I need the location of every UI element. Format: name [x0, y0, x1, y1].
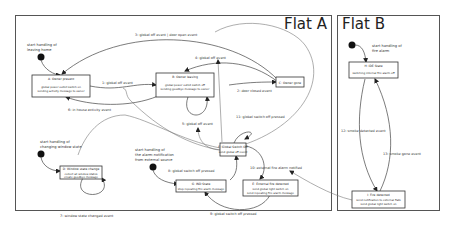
transition-3-label: 3: global off event | door open event	[135, 33, 198, 37]
svg-text:H: IDE State: H: IDE State	[364, 64, 382, 68]
start-node-alarm-notification	[150, 164, 157, 171]
svg-text:send repeating fire alarm mess: send repeating fire alarm message	[247, 191, 294, 195]
state-diagram: Flat A Flat B start handling of leaving …	[0, 0, 454, 233]
svg-text:the alarm-notification: the alarm-notification	[135, 153, 174, 157]
transition-2-label: 2: door closed event	[237, 89, 272, 93]
state-a-owner-present: A: Owner present global power outlet swi…	[32, 75, 90, 97]
transition-2	[229, 82, 276, 85]
start-arrow-d	[41, 157, 60, 171]
svg-text:I: Fire detected: I: Fire detected	[367, 193, 390, 197]
svg-text:switching internal fire alarm: switching internal fire alarm off	[352, 71, 394, 75]
svg-text:B: Owner leaving: B: Owner leaving	[172, 75, 198, 79]
start-note-window-state: start handling of changing window state	[40, 140, 82, 149]
svg-text:from external source: from external source	[135, 158, 173, 162]
svg-text:sending activity message to ow: sending activity message to owner	[37, 89, 85, 93]
transition-11	[234, 132, 251, 143]
transition-5	[187, 97, 208, 115]
transition-8	[230, 156, 237, 180]
svg-text:start handling of: start handling of	[40, 140, 70, 144]
transition-11-label: 11: global switch off pressed	[236, 115, 285, 119]
transition-f-to-e	[246, 146, 264, 179]
transition-1-label: 1: global off event	[102, 81, 134, 85]
flat-a-title: Flat A	[284, 15, 328, 33]
state-b-owner-leaving: B: Owner leaving global power outlet swi…	[156, 73, 214, 97]
state-e-external-fire-detected: E: External fire detected send global li…	[243, 180, 298, 196]
transition-6-label: 6: in house activity event	[68, 108, 112, 112]
svg-text:F: Global Switch Off: F: Global Switch Off	[218, 145, 248, 149]
svg-text:start handling of: start handling of	[372, 44, 402, 48]
svg-text:send global light switch on: send global light switch on	[361, 202, 397, 206]
svg-text:sending goodbye message to own: sending goodbye message to owner	[161, 87, 211, 91]
svg-text:start handling of: start handling of	[135, 148, 165, 152]
flat-b-title: Flat B	[342, 15, 385, 33]
svg-text:send global off event: send global off event	[219, 150, 247, 154]
svg-text:start handling of: start handling of	[27, 43, 57, 47]
transition-10	[290, 171, 352, 200]
state-i-fire-detected: I: Fire detected send notification to ex…	[352, 191, 405, 208]
transition-12-label: 12: smoke detected event	[341, 129, 386, 133]
state-f-global-switch-off: F: Global Switch Off send global off eve…	[218, 143, 248, 156]
transition-9-label: 9: global switch off pressed	[210, 212, 257, 216]
transition-f-to-b	[218, 60, 222, 142]
transition-4-label: 4: global off event	[195, 56, 227, 60]
start-note-fire-alarm: start handling of fire alarm	[372, 44, 402, 53]
transition-7-label: 7: window state changed event	[60, 214, 114, 218]
start-node-window-state	[38, 151, 45, 158]
transition-8-label: 8: global switch off pressed	[168, 169, 215, 173]
start-node-fire-alarm	[349, 42, 356, 49]
start-note-alarm-notification: start handling of the alarm-notification…	[135, 148, 174, 162]
state-c-owner-gone: C: Owner gone	[276, 77, 304, 87]
svg-text:fire alarm: fire alarm	[372, 49, 390, 53]
svg-text:leaving home: leaving home	[27, 48, 52, 52]
state-h-ide-state: H: IDE State switching internal fire ala…	[349, 62, 398, 78]
transition-7	[81, 178, 105, 195]
svg-text:C: Owner gone: C: Owner gone	[279, 81, 301, 85]
start-arrow-h	[355, 45, 366, 62]
svg-text:stop repeating fire alarm mess: stop repeating fire alarm message	[178, 187, 225, 191]
transition-13-label: 13: smoke gone event	[383, 152, 422, 156]
svg-text:D: Window state change: D: Window state change	[63, 167, 100, 171]
transition-12	[359, 79, 377, 191]
svg-text:A: Owner present: A: Owner present	[48, 77, 75, 81]
start-note-leaving-home: start handling of leaving home	[27, 43, 57, 52]
svg-text:G: IND State: G: IND State	[192, 182, 211, 186]
state-g-ind-state: G: IND State stop repeating fire alarm m…	[176, 180, 226, 192]
transition-10-label: 10: external fire alarm notified	[250, 166, 302, 170]
state-d-window-state-change: D: Window state change collect all windo…	[60, 166, 102, 179]
svg-text:changing window state: changing window state	[40, 145, 82, 149]
transition-5-label: 5: global off event	[182, 122, 214, 126]
svg-text:E: External fire detected: E: External fire detected	[252, 182, 289, 186]
start-node-leaving-home	[38, 54, 45, 61]
start-arrow-a	[41, 60, 60, 75]
svg-text:create goodbye message: create goodbye message	[64, 175, 98, 179]
transition-13	[375, 79, 391, 191]
